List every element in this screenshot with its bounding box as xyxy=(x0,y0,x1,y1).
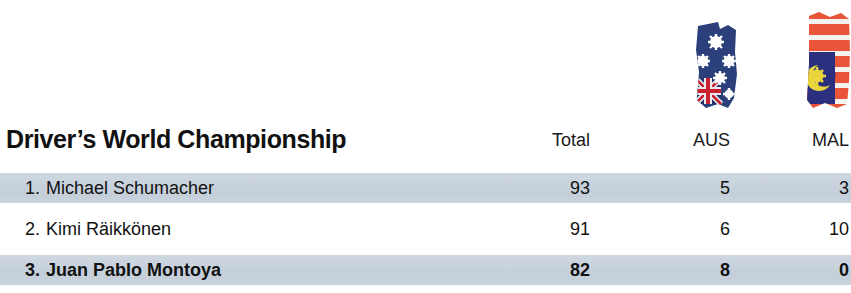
cell-aus: 6 xyxy=(620,214,730,244)
column-header-total: Total xyxy=(430,128,590,152)
driver-name-cell: 2.Kimi Räikkönen xyxy=(25,214,171,244)
cell-mal: 3 xyxy=(730,173,849,203)
table-header: Driver’s World Championship Total AUS MA… xyxy=(0,124,851,160)
australia-flag xyxy=(688,12,744,116)
driver-rank: 1. xyxy=(25,178,40,198)
cell-total: 82 xyxy=(430,255,590,285)
driver-name: Juan Pablo Montoya xyxy=(46,260,221,280)
driver-rank: 2. xyxy=(25,219,40,239)
page-title: Driver’s World Championship xyxy=(6,124,346,154)
driver-rank: 3. xyxy=(25,260,40,280)
cell-aus: 8 xyxy=(620,255,730,285)
cell-mal: 10 xyxy=(730,214,849,244)
driver-name-cell: 1.Michael Schumacher xyxy=(25,173,214,203)
table-row: 1.Michael Schumacher 93 5 3 xyxy=(0,173,851,203)
table-row: 2.Kimi Räikkönen 91 6 10 xyxy=(0,214,851,244)
column-header-mal: MAL xyxy=(730,128,849,152)
malaysia-flag xyxy=(797,8,851,116)
cell-aus: 5 xyxy=(620,173,730,203)
flag-strip xyxy=(0,0,851,120)
cell-mal: 0 xyxy=(730,255,849,285)
driver-name: Kimi Räikkönen xyxy=(46,219,171,239)
table-row: 3.Juan Pablo Montoya 82 8 0 xyxy=(0,255,851,285)
drivers-championship-panel: Driver’s World Championship Total AUS MA… xyxy=(0,0,851,293)
cell-total: 91 xyxy=(430,214,590,244)
driver-name-cell: 3.Juan Pablo Montoya xyxy=(25,255,221,285)
column-header-aus: AUS xyxy=(620,128,730,152)
cell-total: 93 xyxy=(430,173,590,203)
driver-name: Michael Schumacher xyxy=(46,178,214,198)
standings-table-body: 1.Michael Schumacher 93 5 3 2.Kimi Räikk… xyxy=(0,173,851,293)
